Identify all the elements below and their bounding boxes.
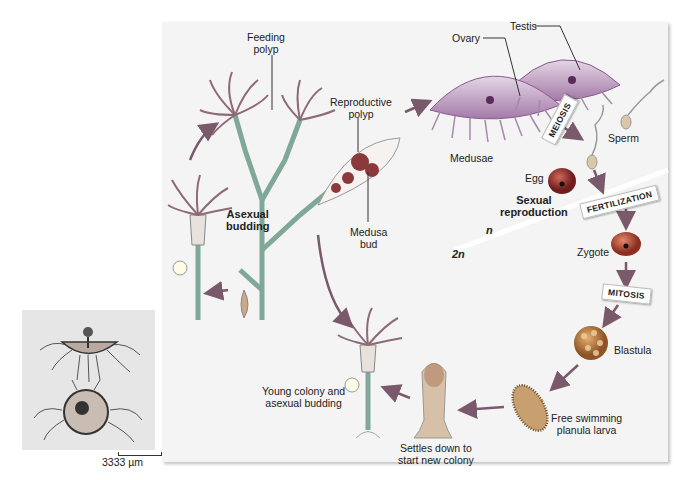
egg [548,168,576,194]
label-asexual-budding: Asexualbudding [226,208,269,232]
label-testis: Testis [510,20,537,32]
label-young-colony: Young colony andasexual budding [262,385,345,409]
label-settles: Settles down tostart new colony [398,442,474,466]
planula-larva [505,379,554,436]
label-sexual-reproduction: Sexualreproduction [500,194,568,218]
label-medusa-bud: Medusabud [350,226,387,250]
label-ovary: Ovary [452,32,480,44]
reproductive-polyp [318,138,400,205]
label-feeding-polyp: Feedingpolyp [247,31,285,55]
label-medusae: Medusae [450,152,493,164]
label-planula: Free swimmingplanula larva [551,412,622,436]
label-haploid: n [486,224,493,236]
label-blastula: Blastula [614,344,651,356]
young-colony [338,308,402,438]
medusae [430,60,620,142]
cycle-arrows [190,102,626,410]
label-egg: Egg [525,172,544,184]
life-cycle-drawing [0,0,695,480]
label-sperm: Sperm [608,132,639,144]
asexual-budding-polyp [168,175,248,320]
label-diploid: 2n [452,248,465,260]
label-zygote: Zygote [577,246,609,258]
feeding-polyp [200,72,335,135]
label-reproductive-polyp: Reproductivepolyp [330,96,392,120]
